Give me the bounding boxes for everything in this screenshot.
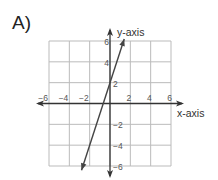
coordinate-plane: −6−4−2246642−2−4−6 x-axis y-axis <box>0 0 218 180</box>
y-tick-label: 2 <box>113 79 118 89</box>
y-axis-label: y-axis <box>117 26 144 38</box>
x-tick-label: −2 <box>79 93 89 103</box>
x-tick-label: 6 <box>167 93 172 103</box>
x-tick-label: 2 <box>127 93 132 103</box>
y-tick-label: 4 <box>104 58 109 68</box>
y-tick-label: 6 <box>104 37 109 47</box>
y-tick-label: −2 <box>113 120 123 130</box>
y-tick-label: −4 <box>113 141 123 151</box>
axes <box>36 28 184 178</box>
line-arrow-top-icon <box>119 39 124 47</box>
x-tick-label: −6 <box>38 93 48 103</box>
tick-labels: −6−4−2246642−2−4−6 <box>38 37 172 172</box>
y-tick-label: −6 <box>113 162 123 172</box>
x-tick-label: 4 <box>147 93 152 103</box>
x-axis-label: x-axis <box>177 107 204 119</box>
x-tick-label: −4 <box>59 93 69 103</box>
